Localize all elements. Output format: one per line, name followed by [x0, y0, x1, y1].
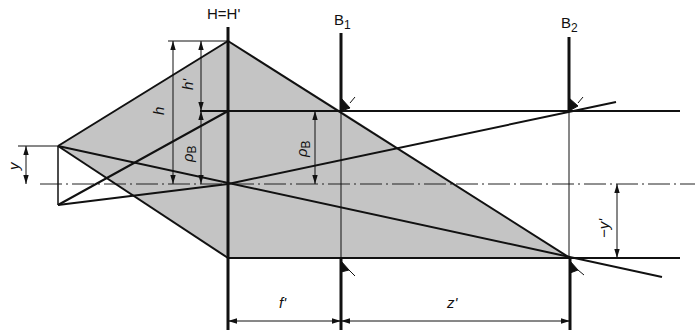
label-principal-plane: H=H' [207, 5, 240, 22]
label-stop-b1: B1 [334, 11, 351, 32]
label-y: y [5, 161, 22, 171]
stop-b1-bottom-marker-icon [341, 261, 355, 276]
optics-diagram: H=H' B1 B2 h h' ρB ρB y −y' f' z' [0, 0, 695, 336]
stop-b1-top-marker-icon [341, 97, 355, 111]
label-z-prime: z' [446, 294, 459, 311]
label-h-prime: h' [179, 78, 196, 90]
label-stop-b2: B2 [561, 14, 578, 35]
stop-b2-bottom-marker-icon [570, 261, 584, 275]
label-neg-y-prime: −y' [595, 218, 612, 238]
shaded-beam-region [58, 41, 570, 258]
label-f-prime: f' [279, 294, 287, 311]
label-h: h [150, 107, 167, 115]
